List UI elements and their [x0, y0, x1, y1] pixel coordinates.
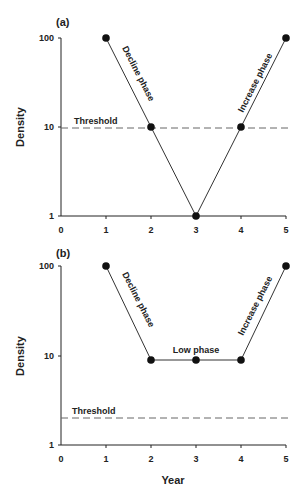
panel-a-ytick-100: 100: [39, 33, 54, 43]
panel-b-label: (b): [56, 247, 70, 259]
panel-a-decline-label: Decline phase: [120, 44, 156, 102]
panel-b-xlabel: Year: [161, 474, 185, 486]
panel-b-ylabel: Density: [14, 335, 26, 376]
panel-b: (b) 100 10 1 0 1 2 3 4 5 Density Year Th…: [14, 247, 290, 486]
panel-b-xtick-4: 4: [238, 454, 243, 464]
panel-a-increase-label: Increase phase: [236, 51, 274, 113]
panel-a-xtick-3: 3: [193, 225, 198, 235]
panel-b-xtick-0: 0: [58, 454, 63, 464]
panel-b-xtick-5: 5: [283, 454, 288, 464]
panel-a-ytick-1: 1: [49, 211, 54, 221]
panel-a-ytick-10: 10: [44, 122, 54, 132]
panel-a-xtick-0: 0: [58, 225, 63, 235]
figure: (a) 100 10 1 0 1 2 3 4 5 Density Thresho…: [0, 0, 306, 499]
panel-b-threshold-label: Threshold: [72, 406, 116, 416]
panel-a: (a) 100 10 1 0 1 2 3 4 5 Density Thresho…: [14, 16, 290, 235]
panel-a-xtick-5: 5: [283, 225, 288, 235]
panel-b-decline-label: Decline phase: [120, 270, 156, 328]
panel-a-ylabel: Density: [14, 106, 26, 147]
panel-b-ytick-1: 1: [49, 440, 54, 450]
panel-b-xtick-1: 1: [103, 454, 108, 464]
panel-a-label: (a): [56, 16, 70, 28]
panel-b-ytick-10: 10: [44, 351, 54, 361]
panel-b-xtick-2: 2: [148, 454, 153, 464]
panel-a-xtick-4: 4: [238, 225, 243, 235]
panel-b-xtick-3: 3: [193, 454, 198, 464]
panel-b-low-label: Low phase: [173, 345, 220, 355]
panel-a-xtick-1: 1: [103, 225, 108, 235]
panel-a-threshold-label: Threshold: [74, 116, 118, 126]
panel-a-xtick-2: 2: [148, 225, 153, 235]
panel-b-ytick-100: 100: [39, 261, 54, 271]
panel-b-increase-label: Increase phase: [236, 274, 274, 336]
